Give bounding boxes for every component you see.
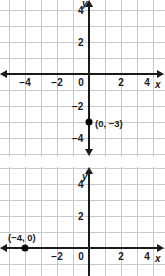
grid-line-h: [0, 90, 165, 91]
grid-line-h: [0, 200, 165, 201]
grid-line-h: [0, 26, 165, 27]
y-tick-2: 2: [78, 38, 84, 48]
y-axis-name: y: [82, 172, 88, 182]
y-tick--2: −2: [72, 102, 83, 112]
y-axis-line: [88, 173, 90, 276]
y-tick-2: 2: [78, 212, 84, 222]
x-tick-0: 0: [78, 78, 84, 88]
y-axis-line: [88, 6, 90, 149]
x-tick-2: 2: [118, 252, 124, 262]
grid-line-h: [0, 122, 165, 123]
point-label: (−4, 0): [8, 233, 36, 243]
y-axis-arrow-down: [85, 149, 93, 156]
figure-root: −4 −2 0 2 4 4 2 −2 −4 x y (0, −3): [0, 0, 165, 276]
x-axis-arrow-left: [0, 244, 7, 252]
graph-top: −4 −2 0 2 4 4 2 −2 −4 x y (0, −3): [0, 0, 165, 157]
x-axis-line: [5, 73, 157, 75]
x-tick-4: 4: [144, 78, 150, 88]
x-tick--2: −2: [51, 252, 62, 262]
grid-line-h: [0, 168, 165, 169]
x-axis-arrow-right: [157, 244, 164, 252]
x-axis-arrow-right: [157, 70, 164, 78]
grid-line-v: [105, 0, 106, 157]
grid-line-v: [137, 0, 138, 157]
grid-line-h: [0, 264, 165, 265]
point-label: (0, −3): [95, 119, 123, 129]
y-tick--4: −4: [72, 134, 83, 144]
grid-line-h: [0, 58, 165, 59]
x-tick-0: 0: [78, 252, 84, 262]
x-axis-arrow-left: [0, 70, 7, 78]
x-tick-4: 4: [144, 252, 150, 262]
x-axis-name: x: [155, 254, 161, 264]
grid-line-v: [153, 0, 154, 157]
x-tick--4: −4: [19, 78, 30, 88]
plotted-point: [86, 119, 93, 126]
y-axis-name: y: [82, 0, 88, 9]
plotted-point: [22, 245, 29, 252]
x-axis-name: x: [155, 80, 161, 90]
grid-line-v: [41, 0, 42, 157]
grid-line-h: [0, 154, 165, 155]
grid-line-v: [9, 0, 10, 157]
x-tick-2: 2: [118, 78, 124, 88]
x-tick--2: −2: [51, 78, 62, 88]
graph-bottom: −2 0 2 4 4 2 x y (−4, 0): [0, 167, 165, 276]
